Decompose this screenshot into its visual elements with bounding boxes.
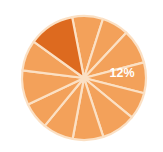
pie-slice-percent-label: 12% xyxy=(109,66,134,80)
pie-chart-container: 12% xyxy=(0,0,163,152)
pie-labels-group: 12% xyxy=(109,66,134,80)
pie-chart-svg: 12% xyxy=(0,0,163,152)
